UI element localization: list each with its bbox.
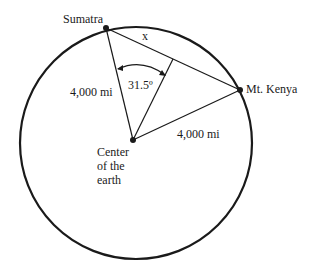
center-dot bbox=[130, 137, 136, 143]
arc-arrowhead-left bbox=[117, 65, 123, 71]
radius-left-label: 4,000 mi bbox=[70, 85, 113, 99]
earth-circle bbox=[20, 27, 252, 259]
mt-kenya-label: Mt. Kenya bbox=[246, 82, 297, 96]
sumatra-dot bbox=[103, 25, 109, 31]
angle-label: 31.5º bbox=[128, 78, 153, 92]
sumatra-label: Sumatra bbox=[63, 12, 103, 26]
earth-diagram bbox=[0, 0, 313, 277]
chord-x-label: x bbox=[142, 29, 148, 43]
angle-arc bbox=[118, 65, 165, 75]
center-label-line3: earth bbox=[97, 173, 121, 187]
radius-right-label: 4,000 mi bbox=[177, 127, 220, 141]
bisector-line bbox=[133, 59, 173, 140]
center-label-line2: of the bbox=[97, 159, 125, 173]
mt-kenya-dot bbox=[237, 87, 243, 93]
arc-arrowhead-right bbox=[159, 70, 166, 76]
center-label-line1: Center bbox=[97, 145, 129, 159]
